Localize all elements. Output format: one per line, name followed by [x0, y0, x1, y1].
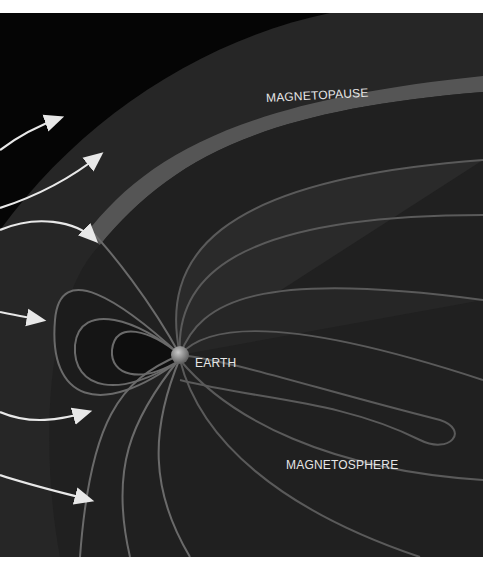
diagram-canvas — [0, 13, 483, 557]
earth-label: EARTH — [195, 356, 236, 370]
solar-wind-arrow — [0, 118, 60, 150]
magnetosphere-label: MAGNETOSPHERE — [286, 458, 398, 472]
magnetosphere-diagram: MAGNETOPAUSE EARTH MAGNETOSPHERE — [0, 13, 483, 557]
earth-icon — [171, 346, 189, 364]
